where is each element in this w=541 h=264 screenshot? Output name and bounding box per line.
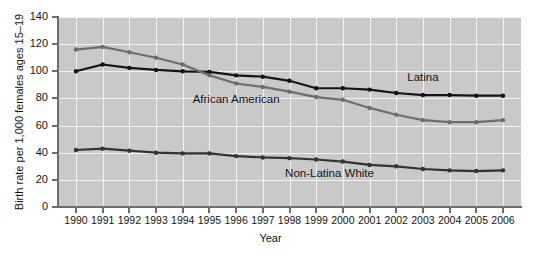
y-axis-title: Birth rate per 1,000 females ages 15–19 — [13, 7, 25, 217]
y-tick — [52, 152, 57, 154]
y-tick — [52, 179, 57, 181]
data-point — [341, 98, 345, 102]
y-tick — [52, 97, 57, 99]
x-tick — [395, 208, 397, 213]
x-tick — [502, 208, 504, 213]
data-point — [181, 69, 185, 73]
x-tick — [315, 208, 317, 213]
x-tick — [102, 208, 104, 213]
data-point — [207, 151, 211, 155]
data-point — [181, 151, 185, 155]
y-tick — [52, 16, 57, 18]
data-point — [154, 68, 158, 72]
data-point — [447, 168, 451, 172]
x-tick — [475, 208, 477, 213]
data-point — [261, 75, 265, 79]
data-point — [234, 73, 238, 77]
data-point — [207, 73, 211, 77]
series-line — [76, 47, 503, 122]
data-point — [421, 118, 425, 122]
x-tick — [289, 208, 291, 213]
series-label-non-latina-white: Non-Latina White — [285, 167, 374, 179]
data-point — [74, 47, 78, 51]
data-point — [447, 93, 451, 97]
data-point — [127, 66, 131, 70]
data-point — [367, 106, 371, 110]
data-point — [127, 148, 131, 152]
y-tick — [52, 206, 57, 208]
data-point — [474, 169, 478, 173]
data-point — [421, 93, 425, 97]
data-point — [100, 62, 104, 66]
data-point — [314, 157, 318, 161]
data-point — [74, 148, 78, 152]
data-point — [474, 120, 478, 124]
y-tick — [52, 70, 57, 72]
data-point — [341, 159, 345, 163]
data-point — [394, 91, 398, 95]
x-tick — [75, 208, 77, 213]
data-point — [287, 89, 291, 93]
data-point — [501, 118, 505, 122]
x-tick — [422, 208, 424, 213]
x-tick — [208, 208, 210, 213]
data-point — [421, 167, 425, 171]
x-tick — [342, 208, 344, 213]
data-point — [100, 45, 104, 49]
series-label-african-american: African American — [193, 93, 280, 105]
x-tick — [235, 208, 237, 213]
data-point — [474, 94, 478, 98]
x-tick — [155, 208, 157, 213]
data-point — [74, 69, 78, 73]
x-tick — [128, 208, 130, 213]
data-point — [287, 156, 291, 160]
data-point — [127, 50, 131, 54]
y-tick — [52, 125, 57, 127]
series-label-latina: Latina — [407, 71, 438, 83]
data-point — [181, 62, 185, 66]
x-tick-label: 2006 — [483, 214, 523, 226]
data-point — [394, 113, 398, 117]
data-point — [287, 79, 291, 83]
series-african-american — [74, 45, 505, 125]
x-tick — [449, 208, 451, 213]
data-point — [367, 87, 371, 91]
data-point — [501, 168, 505, 172]
data-point — [447, 120, 451, 124]
data-point — [261, 85, 265, 89]
y-tick — [52, 43, 57, 45]
data-point — [234, 154, 238, 158]
data-point — [154, 56, 158, 60]
data-point — [100, 146, 104, 150]
x-tick — [182, 208, 184, 213]
y-axis-line — [57, 16, 59, 208]
birth-rate-line-chart: 020406080100120140 199019911992199319941… — [0, 0, 541, 264]
data-point — [261, 155, 265, 159]
x-tick — [369, 208, 371, 213]
data-point — [501, 94, 505, 98]
data-point — [154, 151, 158, 155]
data-point — [314, 95, 318, 99]
x-axis-title: Year — [0, 232, 541, 244]
data-point — [314, 86, 318, 90]
data-point — [234, 81, 238, 85]
x-tick — [262, 208, 264, 213]
data-point — [341, 86, 345, 90]
data-point — [394, 164, 398, 168]
